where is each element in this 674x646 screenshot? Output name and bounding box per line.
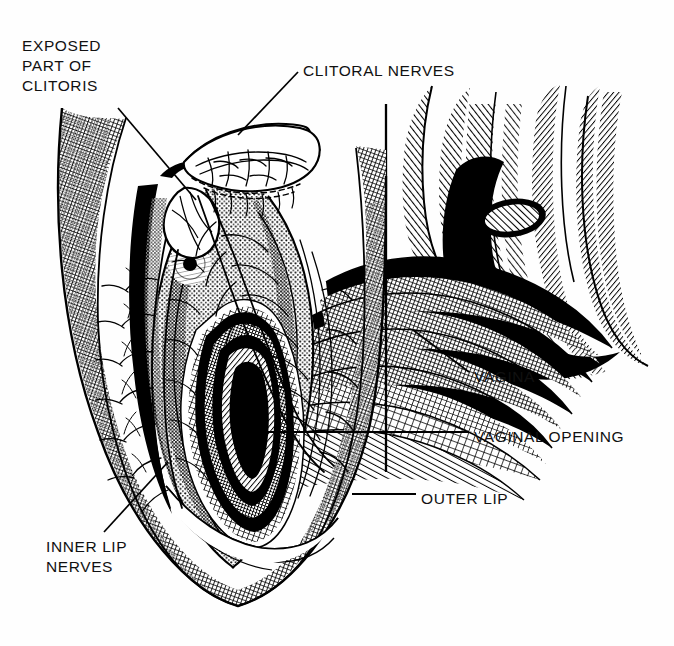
- label-clitoral-nerves: CLITORAL NERVES: [303, 61, 455, 81]
- label-outer-lip: OUTER LIP: [421, 489, 508, 509]
- label-vagina: VAGINA: [474, 367, 535, 387]
- anatomical-illustration: EXPOSED PART OF CLITORIS CLITORAL NERVES…: [0, 0, 674, 646]
- label-inner-lip-nerves: INNER LIP NERVES: [46, 537, 127, 577]
- label-exposed-part-of-clitoris: EXPOSED PART OF CLITORIS: [22, 36, 101, 96]
- label-vaginal-opening: VAGINAL OPENING: [474, 427, 624, 447]
